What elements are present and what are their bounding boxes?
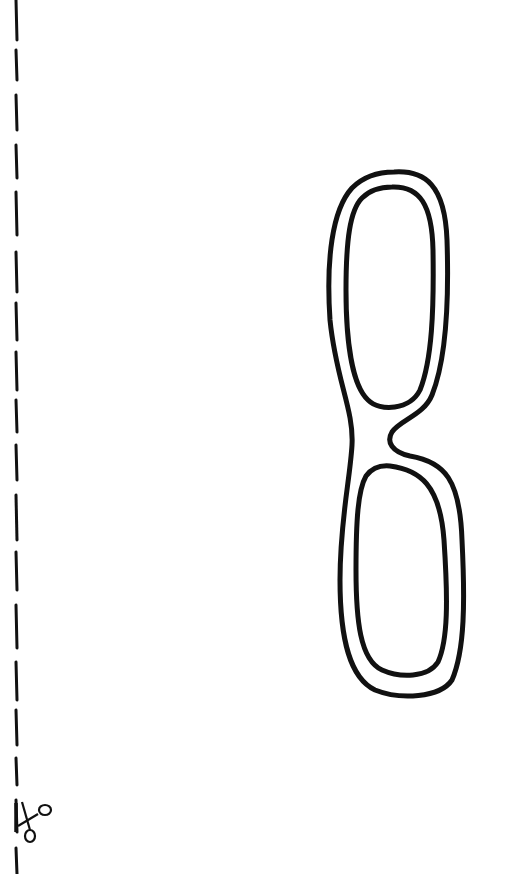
drawing-canvas bbox=[0, 0, 524, 874]
dashed-cut-line bbox=[16, 0, 17, 874]
eyeglasses-outline bbox=[329, 172, 464, 696]
scissors-icon bbox=[16, 802, 51, 842]
coloring-sheet bbox=[0, 0, 524, 874]
